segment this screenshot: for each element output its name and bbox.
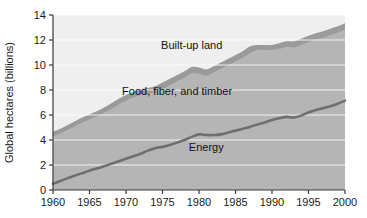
y-tick-label: 10	[34, 59, 46, 71]
series-annotation: Built-up land	[161, 39, 222, 51]
chart-figure: 0246810121419601965197019751980198519901…	[0, 0, 367, 218]
y-tick-label: 8	[40, 84, 46, 96]
y-axis-title: Global hectares (billions)	[3, 42, 15, 163]
x-tick-label: 1975	[150, 196, 174, 208]
y-tick-label: 4	[40, 134, 46, 146]
series-annotation: Food, fiber, and timber	[122, 85, 232, 97]
area-chart: 0246810121419601965197019751980198519901…	[0, 0, 367, 218]
y-tick-label: 12	[34, 34, 46, 46]
x-tick-label: 2000	[333, 196, 357, 208]
y-tick-label: 0	[40, 184, 46, 196]
x-tick-label: 1960	[41, 196, 65, 208]
y-tick-label: 14	[34, 9, 46, 21]
x-tick-label: 1995	[296, 196, 320, 208]
x-tick-label: 1990	[260, 196, 284, 208]
series-annotation: Energy	[189, 141, 224, 153]
x-tick-label: 1970	[114, 196, 138, 208]
x-tick-label: 1980	[187, 196, 211, 208]
y-tick-label: 2	[40, 159, 46, 171]
y-tick-label: 6	[40, 109, 46, 121]
x-tick-label: 1985	[223, 196, 247, 208]
x-tick-label: 1965	[77, 196, 101, 208]
